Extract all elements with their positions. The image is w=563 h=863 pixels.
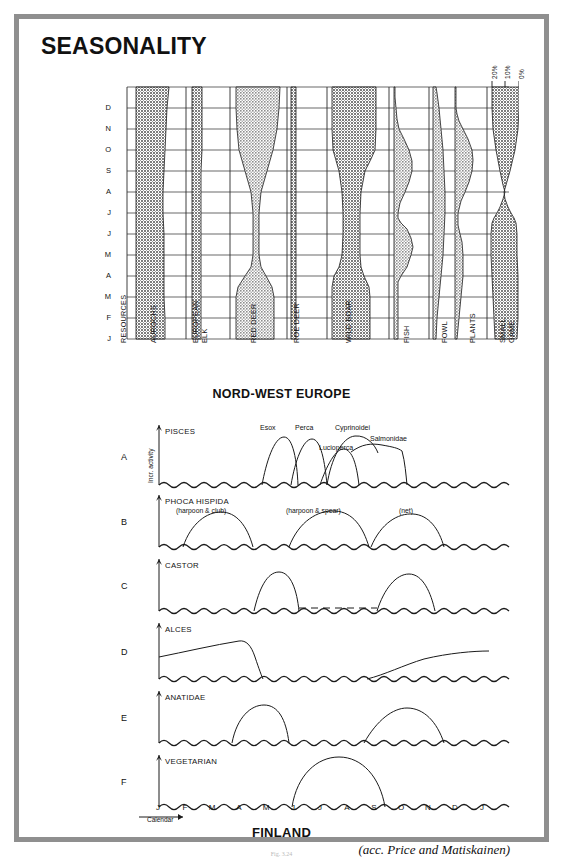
calendar-month-4: M <box>259 803 273 812</box>
species-label-lucioperca: Lucioperca <box>319 444 353 451</box>
top-axis-month-11: J <box>97 334 111 343</box>
method-label-harpoon-spear: (harpoon & spear) <box>286 507 341 514</box>
top-axis-month-9: M <box>97 292 111 301</box>
panel-a-axes <box>156 425 509 488</box>
panel-letter-d: D <box>121 647 128 657</box>
panel-letter-e: E <box>121 713 127 723</box>
top-axis-month-0: D <box>97 103 111 112</box>
page-title: SEASONALITY <box>41 33 207 60</box>
panel-d-axes <box>156 623 509 682</box>
top-axis-month-4: A <box>97 187 111 196</box>
resource-label-european-elk-2: ELK <box>200 329 209 344</box>
top-axis-month-10: F <box>97 313 111 322</box>
figure-frame: SEASONALITY <box>14 14 549 842</box>
method-label-net: (net) <box>399 507 413 514</box>
curve-anatidae-autumn <box>364 708 444 743</box>
top-axis-month-3: S <box>97 166 111 175</box>
species-label-esox: Esox <box>260 424 276 431</box>
calendar-axis-label: Calendar <box>147 816 173 823</box>
calendar-month-10: N <box>421 803 435 812</box>
top-axis-month-7: M <box>97 250 111 259</box>
resource-label-fish: FISH <box>402 325 411 343</box>
calendar-month-2: M <box>205 803 219 812</box>
calendar-month-11: D <box>448 803 462 812</box>
curve-salmonidae <box>351 444 407 485</box>
resource-label-roe-deer: ROE DEER <box>292 303 301 343</box>
calendar-month-1: F <box>178 803 192 812</box>
curve-phoca-net <box>371 514 444 547</box>
species-label-cyprinoidei: Cyprinoidei <box>335 424 370 431</box>
top-axis-month-1: N <box>97 124 111 133</box>
scale-label-20: 20% <box>491 65 498 79</box>
lower-panels-svg <box>99 417 519 817</box>
panel-title-anatidae: ANATIDAE <box>165 693 205 702</box>
calendar-month-7: A <box>340 803 354 812</box>
top-axis-month-2: O <box>97 145 111 154</box>
panel-letter-a: A <box>121 452 127 462</box>
panel-title-pisces: PISCES <box>165 427 195 436</box>
curve-alces-autumn <box>367 651 489 679</box>
panel-title-vegetarian: VEGETARIAN <box>165 757 217 766</box>
resources-axis-label: RESOURCES <box>119 295 128 343</box>
panel-title-castor: CASTOR <box>165 561 199 570</box>
calendar-month-0: J <box>151 803 165 812</box>
resource-label-european-elk-1: EUROPEAN <box>191 300 200 343</box>
resource-label-red-deer: RED DEER <box>249 303 258 343</box>
resource-label-fowl: FOWL <box>440 321 449 343</box>
top-axis-month-5: J <box>97 208 111 217</box>
scale-label-0: 0% <box>518 69 525 79</box>
calendar-month-6: J <box>313 803 327 812</box>
curve-alces-winter <box>159 641 263 679</box>
panel-letter-f: F <box>121 777 127 787</box>
panel-c-axes <box>156 559 509 614</box>
method-label-harpoon-club: (harpoon & club) <box>176 507 226 514</box>
curve-lucioperca <box>320 449 359 485</box>
resource-label-small-game-1: SMALL <box>498 318 507 343</box>
panel-title-phoca-hispida: PHOCA HISPIDA <box>165 497 229 506</box>
top-chart-region-label: NORD-WEST EUROPE <box>19 387 544 401</box>
species-label-salmonidae: Salmonidae <box>370 435 407 442</box>
panel-e-axes <box>156 691 509 746</box>
curve-anatidae-spring <box>232 705 289 743</box>
violin-roe-deer <box>291 87 296 339</box>
figure-caption: Fig. 3.24 <box>0 851 563 857</box>
panel-letter-c: C <box>121 581 128 591</box>
panel-title-alces: ALCES <box>165 625 192 634</box>
calendar-axis: J F M A M J J A S O N D J <box>19 803 563 819</box>
resource-label-small-game-2: GAME <box>507 321 516 343</box>
curve-castor-autumn <box>377 574 435 611</box>
top-chart-svg <box>99 77 519 377</box>
calendar-month-3: A <box>232 803 246 812</box>
violin-fowl <box>433 87 445 339</box>
calendar-month-9: O <box>394 803 408 812</box>
top-seasonality-chart: D N O S A J J M A M F J 20% 10% 0% RESOU… <box>99 77 519 377</box>
curve-phoca-harpoon-spear <box>289 511 369 547</box>
resource-label-aurochs: AUROCHS <box>149 305 158 343</box>
lower-chart-region-label: FINLAND <box>19 825 544 840</box>
grid-horizontal <box>127 87 509 339</box>
curve-phoca-harpoon-club <box>183 512 253 547</box>
figure-page: SEASONALITY <box>0 0 563 863</box>
top-axis-month-6: J <box>97 229 111 238</box>
scale-label-10: 10% <box>504 65 511 79</box>
resource-label-plants: PLANTS <box>468 313 477 343</box>
y-axis-label-incr-activity: Incr. activity <box>147 449 154 483</box>
calendar-month-8: S <box>367 803 381 812</box>
finland-panels: A B C D E F PISCES PHOCA HISPIDA CASTOR … <box>99 417 519 817</box>
calendar-month-5: J <box>286 803 300 812</box>
resource-label-wild-boar: WILD BOAR <box>344 300 353 343</box>
top-axis-month-8: A <box>97 271 111 280</box>
scale-ticks <box>492 81 519 87</box>
panel-letter-b: B <box>121 517 127 527</box>
curve-vegetarian <box>292 757 385 807</box>
curve-castor-spring <box>254 572 299 611</box>
calendar-month-12: J <box>475 803 489 812</box>
species-label-perca: Perca <box>295 424 313 431</box>
